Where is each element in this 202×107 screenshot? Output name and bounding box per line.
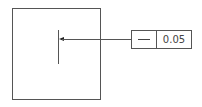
geometric-characteristic-cell (132, 31, 157, 48)
toleranced-feature-line (58, 30, 59, 64)
part-outline (12, 8, 101, 100)
leader-line (62, 39, 132, 40)
feature-control-frame: 0.05 (131, 30, 192, 49)
tolerance-value: 0.05 (157, 31, 191, 48)
straightness-icon (138, 39, 150, 40)
